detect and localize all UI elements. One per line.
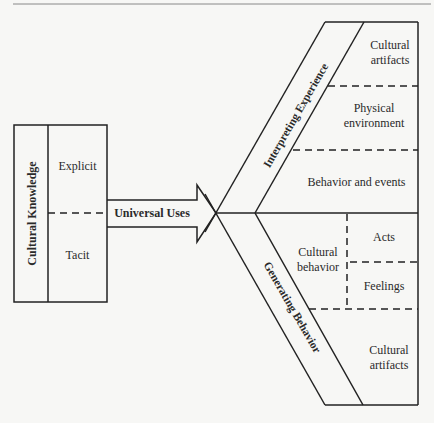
- upper-item-line1: Physical: [330, 101, 418, 116]
- upper-item-behavior-events: Behavior and events: [295, 175, 418, 190]
- cultural-behavior-line2: behavior: [290, 260, 346, 275]
- lower-outer-edge: [205, 194, 325, 405]
- lower-artifacts-line1: Cultural: [360, 343, 418, 358]
- upper-item-line2: artifacts: [362, 53, 418, 68]
- explicit-label: Explicit: [48, 159, 107, 174]
- tacit-label: Tacit: [48, 248, 107, 263]
- cultural-knowledge-label: Cultural Knowledge: [25, 154, 40, 274]
- cultural-behavior-line1: Cultural: [290, 245, 346, 260]
- feelings-label: Feelings: [350, 279, 418, 294]
- upper-item-line2: environment: [330, 116, 418, 131]
- upper-item-line1: Cultural: [362, 38, 418, 53]
- upper-item-physical-environment: Physical environment: [330, 101, 418, 131]
- lower-artifacts-line2: artifacts: [360, 358, 418, 373]
- acts-label: Acts: [350, 230, 418, 245]
- universal-uses-label: Universal Uses: [112, 206, 192, 221]
- upper-outer-edge: [205, 22, 325, 232]
- upper-item-line1: Behavior and events: [295, 175, 418, 190]
- lower-cultural-artifacts: Cultural artifacts: [360, 343, 418, 373]
- cultural-behavior-label: Cultural behavior: [290, 245, 346, 275]
- upper-item-cultural-artifacts: Cultural artifacts: [362, 38, 418, 68]
